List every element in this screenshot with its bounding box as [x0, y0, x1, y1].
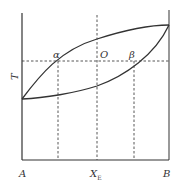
x-label-A: A [18, 168, 26, 179]
x-label-B: B [162, 168, 170, 179]
solidus-curve [22, 25, 169, 99]
origin-label: O [100, 49, 108, 60]
phase-diagram: α O β T A XE B [0, 0, 180, 193]
alpha-label: α [53, 49, 60, 60]
y-axis-label-T: T [9, 72, 20, 80]
x-label-XE-sub: E [97, 174, 101, 181]
x-label-XE: XE [89, 168, 102, 181]
liquidus-curve [22, 25, 169, 99]
beta-label: β [128, 49, 135, 60]
